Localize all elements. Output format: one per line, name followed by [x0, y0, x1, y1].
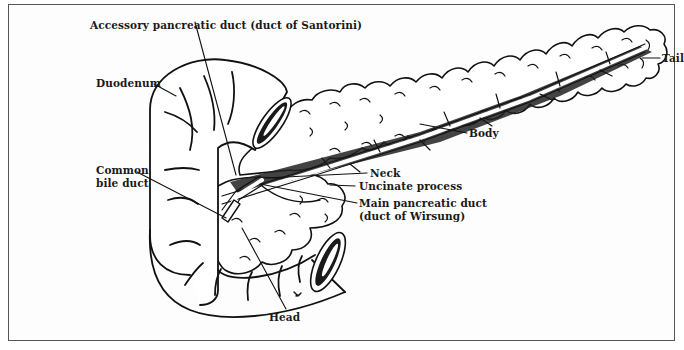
label-main-pancreatic-duct-line1: Main pancreatic duct — [359, 197, 487, 209]
label-body: Body — [469, 127, 499, 139]
label-uncinate-process: Uncinate process — [359, 180, 462, 192]
label-head: Head — [269, 311, 300, 323]
label-accessory-pancreatic-duct: Accessory pancreatic duct (duct of Santo… — [90, 19, 362, 31]
label-main-pancreatic-duct-line2: (duct of Wirsung) — [359, 210, 465, 222]
artist-mark — [294, 292, 301, 296]
label-duodenum: Duodenum — [96, 77, 161, 89]
pancreas-outline — [208, 26, 667, 274]
label-common-bile-duct-line2: bile duct — [96, 177, 149, 189]
label-neck: Neck — [370, 167, 400, 179]
label-tail: Tail — [662, 52, 684, 64]
label-common-bile-duct-line1: Common — [96, 164, 149, 176]
